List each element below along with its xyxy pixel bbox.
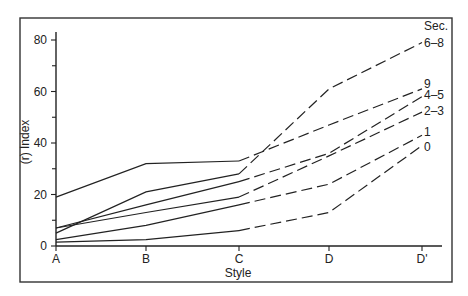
series-line-1-solid: [56, 205, 239, 240]
series-labels: 96–84–52–310: [424, 36, 444, 154]
x-tick-label: B: [142, 252, 150, 266]
y-tick-label: 60: [34, 85, 48, 99]
legend-title: Sec.: [424, 19, 448, 33]
series-line-1-dashed: [239, 135, 422, 205]
series-label-1: 1: [424, 125, 431, 139]
x-tick-label: C: [235, 252, 244, 266]
series-line-6-8-dashed: [239, 43, 422, 174]
x-tick-label: A: [52, 252, 60, 266]
series-line-0-dashed: [239, 146, 422, 231]
y-tick-label: 80: [34, 33, 48, 47]
series-line-4-5-dashed: [239, 97, 422, 182]
line-chart: 020406080ABCDD' 96–84–52–310 Sec. Style …: [0, 0, 468, 296]
series-line-0-solid: [56, 231, 239, 243]
series-label-4-5: 4–5: [424, 88, 444, 102]
x-axis-title: Style: [225, 266, 252, 280]
series-line-4-5-solid: [56, 182, 239, 228]
chart-frame: [20, 18, 452, 282]
series-line-2-3-solid: [56, 197, 239, 228]
x-tick-label: D': [417, 252, 428, 266]
y-tick-label: 0: [40, 239, 47, 253]
series-label-2-3: 2–3: [424, 104, 444, 118]
y-tick-label: 20: [34, 188, 48, 202]
series-label-0: 0: [424, 140, 431, 154]
series-lines: [56, 43, 422, 243]
series-label-6-8: 6–8: [424, 36, 444, 50]
series-line-6-8-solid: [56, 174, 239, 233]
y-axis-title: (r) Index: [18, 120, 32, 165]
y-tick-label: 40: [34, 136, 48, 150]
x-tick-label: D: [325, 252, 334, 266]
